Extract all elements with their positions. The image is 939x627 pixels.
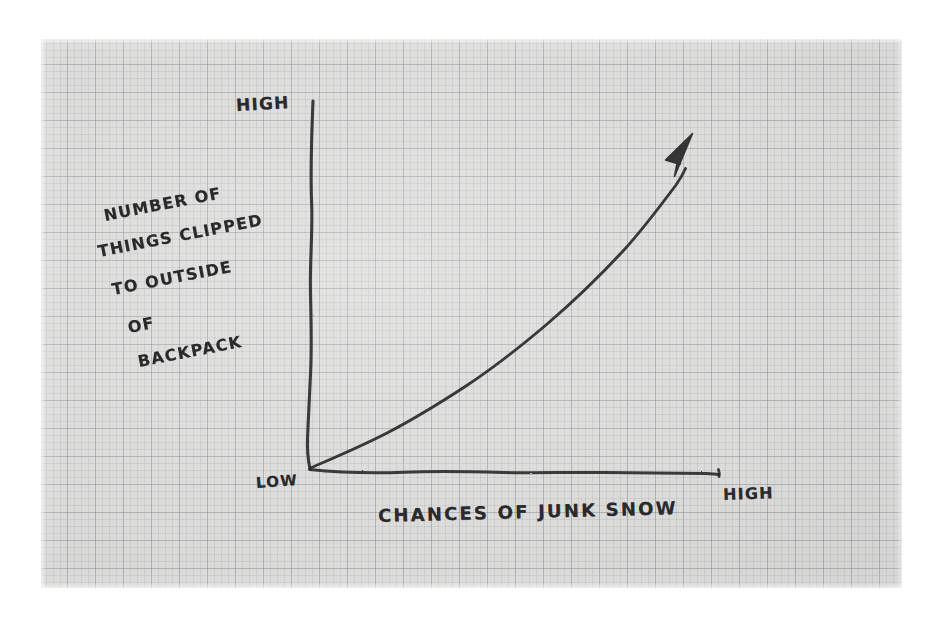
y-axis-title-line-1: NUMBER OF — [102, 185, 222, 224]
y-axis-title-line-3: TO OUTSIDE — [110, 259, 233, 298]
y-axis-title-line-5: BACKPACK — [136, 334, 243, 370]
y-axis-max-label: HIGH — [236, 94, 290, 114]
x-axis-min-label: LOW — [255, 473, 298, 491]
x-axis-max-label: HIGH — [723, 485, 774, 503]
y-axis-title-line-4: OF — [126, 315, 156, 336]
hand-drawn-chart-page: HIGH LOW HIGH CHANCES OF JUNK SNOW NUMBE… — [0, 0, 939, 627]
y-axis-title: NUMBER OF THINGS CLIPPED TO OUTSIDE OF B… — [98, 186, 313, 381]
